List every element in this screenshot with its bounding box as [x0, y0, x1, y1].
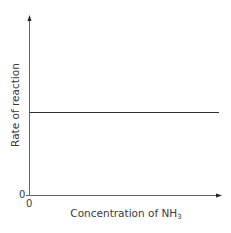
x-axis-label-main: Concentration of NH [70, 207, 177, 219]
x-axis-label: Concentration of NH3 [70, 207, 181, 221]
y-axis-label: Rate of reaction [9, 63, 21, 147]
x-axis-arrow-icon [216, 194, 222, 198]
x-axis-label-subscript: 3 [177, 213, 181, 221]
chart-area [0, 0, 231, 233]
y-tick-zero: 0 [19, 190, 25, 200]
x-tick-zero: 0 [26, 199, 32, 209]
y-axis-arrow-icon [28, 15, 32, 21]
